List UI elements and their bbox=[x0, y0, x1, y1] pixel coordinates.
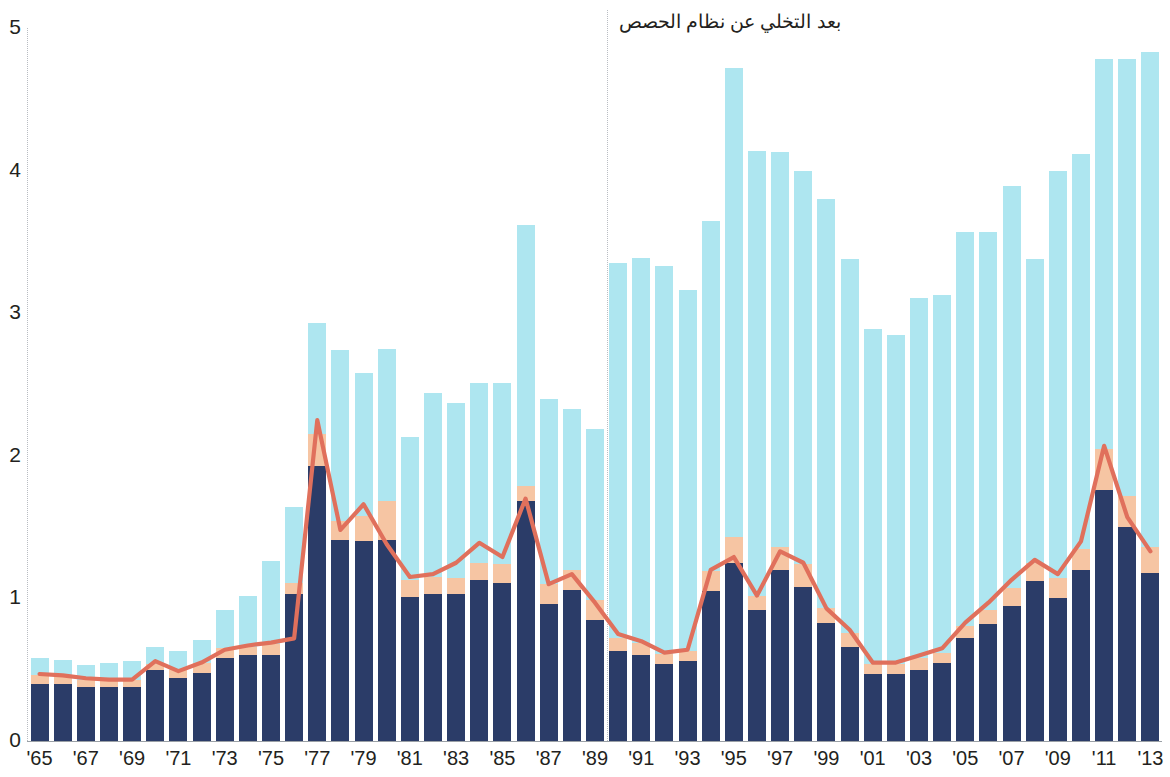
bar-1987 bbox=[540, 256, 558, 741]
bar-segment-navy bbox=[193, 673, 211, 741]
bar-segment-cyan bbox=[1026, 259, 1044, 563]
bar-segment-cyan bbox=[609, 263, 627, 638]
x-tick-label: '83 bbox=[443, 748, 469, 768]
bar-segment-peach bbox=[1003, 588, 1021, 605]
bar-segment-navy bbox=[262, 655, 280, 741]
bar-segment-navy bbox=[817, 623, 835, 741]
bar-segment-peach bbox=[308, 434, 326, 465]
bar-segment-navy bbox=[308, 466, 326, 741]
bar-segment-peach bbox=[887, 664, 905, 674]
x-tick-label: '65 bbox=[27, 748, 53, 768]
bar-segment-cyan bbox=[1003, 186, 1021, 588]
bar-segment-peach bbox=[77, 680, 95, 687]
bar-segment-cyan bbox=[1072, 154, 1090, 549]
bar-segment-peach bbox=[702, 571, 720, 591]
bar-segment-cyan bbox=[910, 298, 928, 659]
bar-segment-peach bbox=[841, 633, 859, 647]
bar-1995 bbox=[725, 68, 743, 741]
bar-segment-peach bbox=[586, 600, 604, 620]
bar-segment-navy bbox=[424, 594, 442, 741]
bar-1984 bbox=[470, 383, 488, 741]
bar-segment-peach bbox=[331, 521, 349, 540]
bar-segment-navy bbox=[1026, 581, 1044, 741]
bar-1979 bbox=[355, 373, 373, 741]
bar-segment-peach bbox=[1049, 578, 1067, 598]
bar-1971 bbox=[169, 651, 187, 741]
bar-segment-peach bbox=[31, 675, 49, 684]
bar-segment-peach bbox=[910, 658, 928, 669]
bar-segment-navy bbox=[933, 663, 951, 741]
bar-2011 bbox=[1095, 59, 1113, 741]
bar-segment-cyan bbox=[748, 151, 766, 596]
bar-segment-cyan bbox=[193, 640, 211, 663]
bar-1973 bbox=[216, 610, 234, 741]
bar-1970 bbox=[146, 647, 164, 741]
bar-segment-navy bbox=[956, 638, 974, 741]
bar-segment-navy bbox=[470, 580, 488, 741]
bar-segment-peach bbox=[100, 680, 118, 687]
bar-segment-navy bbox=[563, 590, 581, 741]
bar-segment-peach bbox=[540, 584, 558, 604]
plot-area: بعد التخلي عن نظام الحصص 012345 '65'67'6… bbox=[0, 0, 1170, 777]
bar-1986 bbox=[517, 225, 535, 741]
y-tick-label: 1 bbox=[0, 586, 21, 607]
bar-2006 bbox=[979, 232, 997, 741]
bar-segment-navy bbox=[979, 624, 997, 741]
bar-segment-peach bbox=[447, 578, 465, 594]
bar-segment-cyan bbox=[956, 232, 974, 626]
x-tick-label: '11 bbox=[1092, 748, 1117, 768]
bar-segment-peach bbox=[470, 563, 488, 580]
bar-segment-peach bbox=[401, 580, 419, 597]
x-tick-label: '85 bbox=[489, 748, 515, 768]
bar-2003 bbox=[910, 298, 928, 741]
bar-segment-peach bbox=[146, 664, 164, 670]
bar-1994 bbox=[702, 221, 720, 741]
bar-segment-peach bbox=[979, 610, 997, 624]
bar-segment-navy bbox=[355, 541, 373, 741]
x-axis-line bbox=[27, 741, 1162, 742]
bar-segment-peach bbox=[1026, 563, 1044, 582]
bar-segment-peach bbox=[1118, 496, 1136, 527]
bar-segment-peach bbox=[725, 537, 743, 563]
bar-segment-cyan bbox=[841, 259, 859, 633]
bar-segment-peach bbox=[123, 680, 141, 687]
bar-segment-peach bbox=[285, 583, 303, 594]
bar-2010 bbox=[1072, 154, 1090, 742]
x-tick-label: '81 bbox=[397, 748, 423, 768]
bar-1974 bbox=[239, 596, 257, 741]
bar-segment-cyan bbox=[331, 350, 349, 521]
bar-segment-cyan bbox=[725, 68, 743, 537]
bar-segment-cyan bbox=[540, 399, 558, 584]
y-tick-label: 2 bbox=[0, 444, 21, 465]
chart-figure: بعد التخلي عن نظام الحصص 012345 '65'67'6… bbox=[0, 0, 1170, 777]
bar-segment-cyan bbox=[655, 266, 673, 654]
bar-1989 bbox=[586, 429, 604, 741]
bar-segment-peach bbox=[1141, 547, 1159, 573]
bar-segment-navy bbox=[331, 540, 349, 741]
x-tick-label: '97 bbox=[767, 748, 793, 768]
bar-1988 bbox=[563, 409, 581, 741]
quota-divider-line bbox=[607, 10, 608, 741]
y-tick-label: 4 bbox=[0, 159, 21, 180]
bar-segment-cyan bbox=[1141, 52, 1159, 547]
bar-segment-navy bbox=[216, 658, 234, 741]
bar-segment-cyan bbox=[1049, 171, 1067, 579]
bar-segment-peach bbox=[679, 651, 697, 661]
bar-1983 bbox=[447, 403, 465, 741]
bar-segment-peach bbox=[54, 677, 72, 684]
bar-segment-navy bbox=[771, 570, 789, 741]
bar-segment-cyan bbox=[216, 610, 234, 649]
bar-segment-cyan bbox=[123, 661, 141, 680]
bar-2013 bbox=[1141, 52, 1159, 741]
bar-segment-navy bbox=[540, 604, 558, 741]
bar-2007 bbox=[1003, 186, 1021, 741]
x-tick-label: '05 bbox=[952, 748, 978, 768]
x-tick-label: '09 bbox=[1045, 748, 1071, 768]
x-tick-label: '07 bbox=[999, 748, 1025, 768]
bar-2008 bbox=[1026, 259, 1044, 741]
bar-segment-cyan bbox=[493, 383, 511, 564]
bar-segment-peach bbox=[748, 596, 766, 610]
bar-segment-navy bbox=[146, 670, 164, 741]
bar-1982 bbox=[424, 393, 442, 741]
bar-segment-cyan bbox=[401, 437, 419, 580]
